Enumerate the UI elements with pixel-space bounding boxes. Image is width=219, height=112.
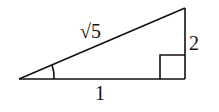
horizontal-leg-label: 1 xyxy=(95,82,105,104)
angle-arc xyxy=(52,65,54,79)
right-angle-marker xyxy=(160,55,185,79)
vertical-leg-label: 2 xyxy=(189,32,199,54)
hypotenuse-label: √5 xyxy=(80,20,101,42)
triangle-diagram: √5 2 1 xyxy=(0,0,219,112)
